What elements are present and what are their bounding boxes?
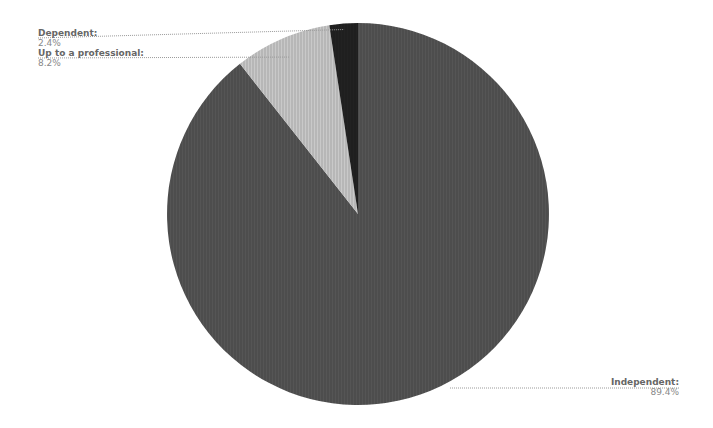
label-independent-name: Independent: xyxy=(611,377,679,387)
pie-slices xyxy=(167,23,549,405)
label-professional-name: Up to a professional: xyxy=(38,48,144,58)
label-professional-value: 8.2% xyxy=(38,58,144,68)
label-professional: Up to a professional: 8.2% xyxy=(38,48,144,68)
label-independent-value: 89.4% xyxy=(611,387,679,397)
label-dependent-name: Dependent: xyxy=(38,28,97,38)
label-independent: Independent: 89.4% xyxy=(611,377,679,397)
label-dependent-value: 2.4% xyxy=(38,38,97,48)
label-dependent: Dependent: 2.4% xyxy=(38,28,97,48)
